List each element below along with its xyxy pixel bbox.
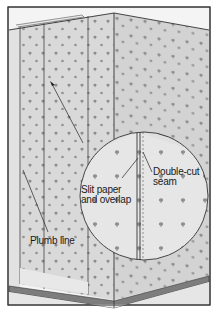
label-slit-line-2: and overlap [81, 195, 131, 205]
label-double-cut-seam: Double-cut seam [153, 167, 199, 187]
label-seam-line-2: seam [153, 177, 199, 187]
label-slit-paper: Slit paper and overlap [81, 185, 131, 205]
bare-wall-left [9, 26, 20, 290]
wallpaper-corner-illustration [0, 0, 218, 319]
label-plumb-line: Plumb line [30, 236, 75, 246]
